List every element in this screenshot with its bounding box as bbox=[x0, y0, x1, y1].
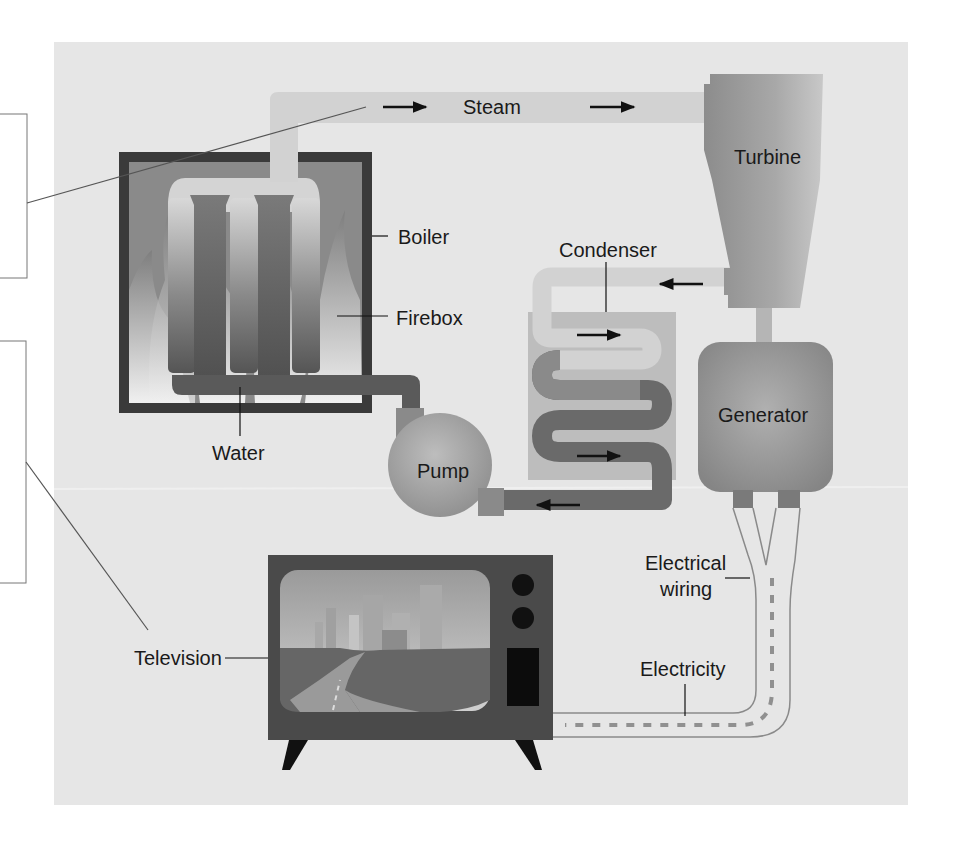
label-firebox: Firebox bbox=[396, 307, 463, 329]
label-boiler: Boiler bbox=[398, 226, 449, 248]
label-electrical-wiring-2: wiring bbox=[659, 578, 712, 600]
boiler-tube-3 bbox=[292, 198, 320, 373]
answer-box-1[interactable] bbox=[0, 114, 27, 278]
label-turbine: Turbine bbox=[734, 146, 801, 168]
tv-speaker bbox=[507, 648, 539, 706]
tv-knob-2 bbox=[512, 607, 534, 629]
boiler-tube-2 bbox=[230, 198, 258, 373]
turbine-shaft bbox=[756, 308, 772, 344]
label-electricity: Electricity bbox=[640, 658, 726, 680]
power-plant-diagram: Steam Turbine Boiler Firebox Condenser G… bbox=[0, 0, 958, 844]
boiler-tube-1 bbox=[168, 198, 196, 373]
label-generator: Generator bbox=[718, 404, 808, 426]
tv-knob-1 bbox=[512, 574, 534, 596]
label-television: Television bbox=[134, 647, 222, 669]
label-pump: Pump bbox=[417, 460, 469, 482]
label-electrical-wiring-1: Electrical bbox=[645, 552, 726, 574]
label-condenser: Condenser bbox=[559, 239, 657, 261]
television bbox=[268, 555, 553, 770]
label-water: Water bbox=[212, 442, 265, 464]
answer-box-2[interactable] bbox=[0, 341, 26, 583]
label-steam: Steam bbox=[463, 96, 521, 118]
